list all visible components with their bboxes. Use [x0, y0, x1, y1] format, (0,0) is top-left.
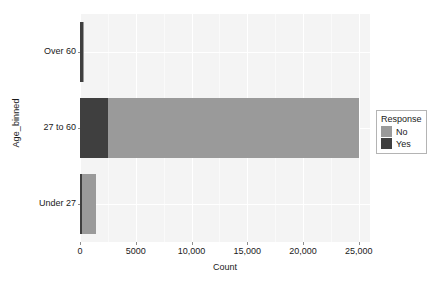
y-tick-label: 27 to 60 [14, 122, 76, 132]
legend-item[interactable]: No [381, 126, 422, 137]
x-tick-mark [136, 242, 137, 245]
x-tick-mark [80, 242, 81, 245]
x-tick-label: 25,000 [345, 246, 373, 256]
bar-chart: Age_binned Over 6027 to 60Under 27 05000… [0, 0, 441, 289]
x-tick-label: 5000 [126, 246, 146, 256]
bar-segment[interactable] [80, 98, 108, 157]
x-tick-label: 15,000 [234, 246, 262, 256]
legend-swatch [381, 126, 392, 137]
y-tick-label: Over 60 [14, 46, 76, 56]
bar-segment[interactable] [83, 22, 84, 81]
legend-title: Response [381, 114, 422, 124]
bar-group[interactable] [80, 98, 370, 157]
plot-panel [80, 14, 370, 242]
y-tick-label: Under 27 [14, 198, 76, 208]
x-axis-title: Count [80, 262, 370, 272]
bar-segment[interactable] [82, 174, 96, 233]
legend-label: No [396, 127, 408, 137]
legend: Response NoYes [376, 110, 427, 154]
x-tick-mark [359, 242, 360, 245]
x-tick-label: 20,000 [289, 246, 317, 256]
x-tick-mark [247, 242, 248, 245]
bar-group[interactable] [80, 174, 370, 233]
bar-segment[interactable] [108, 98, 359, 157]
y-axis-tick-labels: Over 6027 to 60Under 27 [12, 0, 76, 289]
legend-items: NoYes [381, 126, 422, 149]
x-tick-mark [192, 242, 193, 245]
x-tick-label: 10,000 [178, 246, 206, 256]
x-tick-mark [303, 242, 304, 245]
legend-swatch [381, 138, 392, 149]
x-axis: 0500010,00015,00020,00025,000 [80, 242, 370, 262]
legend-item[interactable]: Yes [381, 138, 422, 149]
bar-group[interactable] [80, 22, 370, 81]
x-tick-label: 0 [77, 246, 82, 256]
legend-label: Yes [396, 139, 411, 149]
